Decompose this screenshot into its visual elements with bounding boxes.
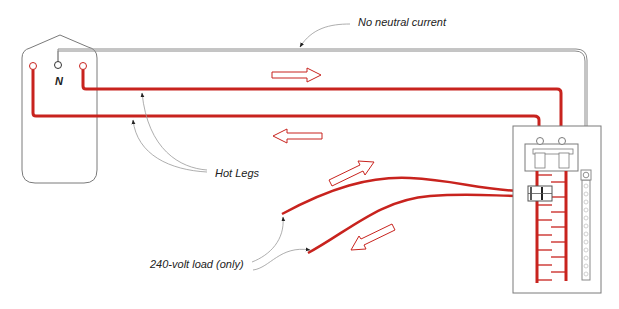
main-breaker [525, 144, 578, 171]
current-arrow-left-icon [273, 129, 322, 143]
neutral-terminal-label: N [55, 75, 63, 87]
current-arrow-down-left-icon [351, 224, 395, 250]
leader-hot-leg-2 [133, 120, 207, 172]
neutral-bar [581, 170, 591, 280]
load-label: 240-volt load (only) [150, 258, 244, 270]
leader-load-1 [252, 217, 283, 262]
wiring-diagram [0, 0, 619, 309]
leader-hot-leg-1 [142, 93, 207, 170]
load-hot-conductor-2 [308, 195, 522, 253]
hot-terminal-right [80, 63, 87, 70]
no-neutral-current-label: No neutral current [358, 16, 446, 28]
hot-legs-label: Hot Legs [215, 167, 259, 179]
leader-load-2 [253, 249, 310, 270]
neutral-terminal [55, 62, 62, 69]
current-arrow-right-icon [272, 68, 321, 82]
leader-no-neutral [300, 24, 350, 47]
hot-leg-1-wire [83, 68, 561, 142]
breaker-panel [513, 126, 601, 293]
double-pole-breaker [528, 186, 552, 201]
hot-terminal-left [30, 63, 37, 70]
